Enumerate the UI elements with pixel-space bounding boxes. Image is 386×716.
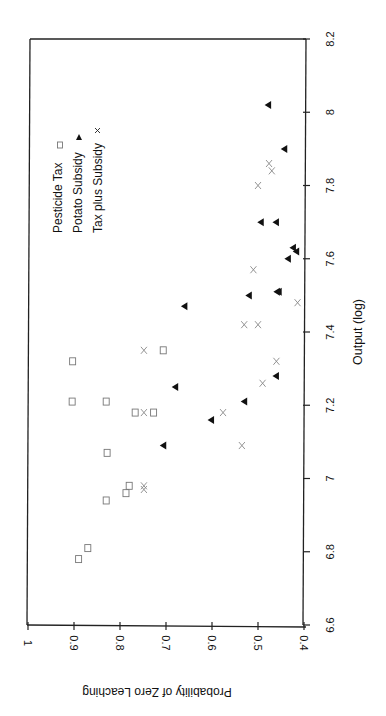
pesticide-tax-point: [103, 398, 109, 405]
probability-tick-label: 0.7: [160, 635, 172, 650]
output-tick-label: 8.2: [324, 31, 336, 46]
tax-plus-subsidy-point: [255, 321, 261, 328]
tax-plus-subsidy-point: [250, 266, 256, 273]
potato-subsidy-point: [241, 398, 248, 406]
pesticide-tax-point: [160, 347, 166, 354]
probability-tick-label: 0.9: [68, 635, 80, 650]
probability-tick-label: 0.6: [206, 635, 218, 650]
tax-plus-subsidy-point: [255, 182, 261, 189]
tax-plus-subsidy-point: [295, 299, 301, 306]
potato-subsidy-point: [272, 372, 279, 380]
potato-subsidy-point: [265, 101, 272, 109]
tax-plus-subsidy-point: [266, 160, 272, 167]
legend-item-label: Potato Subsidy: [71, 152, 85, 233]
potato-subsidy-point: [160, 442, 167, 450]
output-tick-label: 7: [324, 475, 336, 481]
output-axis-ticks: 6.66.877.27.47.67.888.2: [303, 31, 336, 632]
potato-subsidy-point: [172, 383, 179, 391]
pesticide-tax-point: [151, 409, 157, 416]
tax-plus-subsidy-point: [141, 482, 147, 489]
probability-tick-label: 0.8: [114, 635, 126, 650]
tax-plus-subsidy-point: [141, 409, 147, 416]
tax-plus-subsidy-point: [220, 409, 226, 416]
probability-tick-label: 0.5: [252, 635, 264, 650]
tax-plus-subsidy-point: [239, 442, 245, 449]
tax-plus-subsidy-point: [260, 380, 266, 387]
potato-subsidy-point: [245, 291, 252, 299]
output-tick-label: 7.2: [324, 398, 336, 413]
pesticide-tax-point: [69, 398, 75, 405]
pesticide-tax-point: [132, 409, 138, 416]
legend-item-label: Tax plus Subsidy: [91, 143, 105, 233]
potato-subsidy-point: [272, 218, 279, 226]
tax-plus-subsidy-point: [273, 358, 279, 365]
pesticide-tax-point: [123, 490, 129, 497]
probability-tick-label: 0.4: [298, 635, 310, 650]
tax-plus-subsidy-point: [141, 486, 147, 493]
pesticide-tax-point: [126, 482, 132, 489]
potato-subsidy-point: [208, 416, 215, 424]
potato-subsidy-point: [289, 244, 296, 252]
scatter-chart: 6.66.877.27.47.67.888.2 10.90.80.70.60.5…: [0, 0, 386, 716]
output-tick-label: 8: [324, 109, 336, 115]
potato-subsidy-point: [281, 145, 288, 153]
pesticide-tax-point: [85, 545, 91, 552]
potato-subsidy-point: [181, 302, 188, 310]
legend-x-icon: [95, 128, 100, 133]
output-tick-label: 7.4: [324, 324, 336, 339]
legend: Pesticide TaxPotato SubsidyTax plus Subs…: [51, 128, 105, 233]
output-tick-label: 7.6: [324, 251, 336, 266]
pesticide-tax-point: [104, 449, 110, 456]
legend-triangle-icon: [76, 134, 82, 140]
pesticide-tax-point: [70, 358, 76, 365]
output-tick-label: 7.8: [324, 178, 336, 193]
legend-item-label: Pesticide Tax: [51, 163, 65, 233]
frame-left: [27, 39, 30, 625]
tax-plus-subsidy-point: [141, 347, 147, 354]
potato-subsidy-point: [257, 218, 264, 226]
output-tick-label: 6.8: [324, 544, 336, 559]
output-tick-label: 6.6: [324, 617, 336, 632]
plot-area: [27, 39, 306, 627]
tax-plus-subsidy-point: [241, 321, 247, 328]
legend-square-icon: [58, 142, 63, 148]
probability-axis-label: Probability of Zero Leaching: [82, 685, 231, 699]
tax-plus-subsidy-point: [269, 167, 275, 174]
output-axis-label: Output (log): [351, 299, 365, 365]
probability-tick-label: 1: [22, 640, 34, 646]
potato-subsidy-point: [284, 255, 291, 263]
pesticide-tax-point: [76, 556, 82, 563]
pesticide-tax-point: [103, 497, 109, 504]
